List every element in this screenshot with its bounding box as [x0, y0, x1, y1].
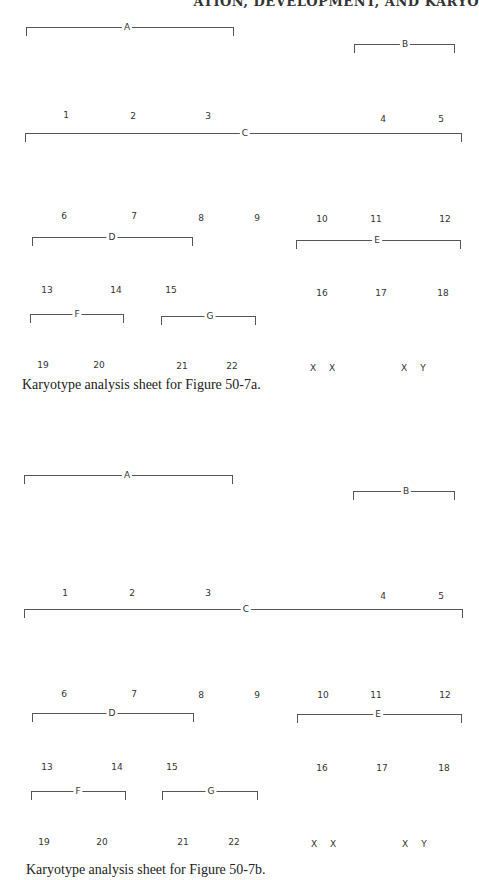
chromosome-label: 16 — [316, 288, 327, 298]
group-bracket-e: E — [296, 240, 461, 249]
group-label-f: F — [73, 785, 82, 797]
chromosome-label-x: X — [402, 839, 408, 849]
chromosome-label: 14 — [110, 285, 121, 295]
chromosome-label: 13 — [41, 762, 52, 772]
chromosome-label: 21 — [177, 837, 188, 847]
group-label-d: D — [107, 231, 118, 243]
chromosome-label: 11 — [370, 214, 381, 224]
chromosome-label-x: X — [329, 363, 335, 373]
chromosome-label: 22 — [226, 361, 237, 371]
group-label-g: G — [206, 785, 217, 797]
chromosome-label: 9 — [254, 213, 260, 223]
chromosome-label-y: Y — [421, 839, 427, 849]
group-bracket-g: G — [161, 316, 256, 325]
chromosome-label: 6 — [61, 689, 67, 699]
group-bracket-g: G — [162, 791, 258, 800]
chromosome-label: 2 — [129, 588, 135, 598]
group-label-a: A — [122, 21, 132, 33]
group-label-c: C — [241, 603, 251, 615]
chromosome-label: 6 — [61, 211, 67, 221]
chromosome-label: 2 — [130, 111, 136, 121]
chromosome-label: 4 — [380, 114, 386, 124]
chromosome-label-x: X — [310, 363, 316, 373]
chromosome-label: 1 — [63, 110, 69, 120]
group-label-d: D — [107, 707, 118, 719]
group-label-e: E — [372, 234, 382, 246]
chromosome-label: 22 — [228, 837, 239, 847]
group-label-e: E — [373, 708, 383, 720]
chromosome-label-x: X — [330, 839, 336, 849]
chromosome-label: 3 — [205, 588, 211, 598]
karyotype-sheet-b: A B 1 2 3 4 5 C 6 7 8 9 10 11 12 D E 13 … — [0, 478, 479, 880]
textbook-page: ATION, DEVELOPMENT, AND KARYO A B 1 2 3 … — [0, 0, 479, 880]
chromosome-label-x: X — [401, 363, 407, 373]
group-bracket-b: B — [354, 44, 455, 53]
chromosome-label: 16 — [316, 763, 327, 773]
chromosome-label: 7 — [131, 689, 137, 699]
chromosome-label: 4 — [380, 591, 386, 601]
chromosome-label: 14 — [111, 762, 122, 772]
chromosome-label: 15 — [165, 285, 176, 295]
chromosome-label: 21 — [176, 361, 187, 371]
group-label-c: C — [240, 127, 250, 139]
chromosome-label: 17 — [376, 763, 387, 773]
figure-caption: Karyotype analysis sheet for Figure 50-7… — [26, 862, 266, 878]
chromosome-label: 11 — [370, 690, 381, 700]
chromosome-label: 10 — [316, 214, 327, 224]
chromosome-label: 20 — [96, 837, 107, 847]
group-bracket-d: D — [32, 237, 193, 246]
group-label-a: A — [122, 469, 132, 481]
chromosome-label: 12 — [439, 690, 450, 700]
group-label-f: F — [72, 308, 81, 320]
group-bracket-c: C — [25, 133, 462, 142]
chromosome-label: 18 — [438, 763, 449, 773]
group-bracket-d: D — [32, 713, 194, 722]
chromosome-label: 3 — [205, 111, 211, 121]
group-label-b: B — [400, 38, 410, 50]
group-label-b: B — [401, 485, 411, 497]
chromosome-label: 5 — [438, 114, 444, 124]
group-bracket-f: F — [31, 791, 126, 800]
chromosome-label: 20 — [93, 360, 104, 370]
karyotype-sheet-a: A B 1 2 3 4 5 C 6 7 8 9 10 11 12 D E 13 … — [0, 0, 479, 420]
figure-caption: Karyotype analysis sheet for Figure 50-7… — [22, 377, 261, 393]
chromosome-label: 9 — [254, 690, 260, 700]
group-bracket-a: A — [24, 475, 233, 484]
chromosome-label: 5 — [438, 591, 444, 601]
group-bracket-c: C — [24, 609, 463, 618]
chromosome-label-x: X — [311, 839, 317, 849]
chromosome-label: 18 — [437, 288, 448, 298]
chromosome-label: 19 — [38, 837, 49, 847]
group-bracket-f: F — [30, 314, 124, 323]
group-bracket-e: E — [297, 714, 462, 723]
chromosome-label: 15 — [166, 762, 177, 772]
chromosome-label-y: Y — [420, 363, 426, 373]
group-label-g: G — [205, 310, 216, 322]
chromosome-label: 17 — [375, 288, 386, 298]
group-bracket-a: A — [26, 27, 234, 36]
chromosome-label: 10 — [317, 690, 328, 700]
chromosome-label: 7 — [131, 211, 137, 221]
chromosome-label: 12 — [439, 214, 450, 224]
group-bracket-b: B — [353, 491, 455, 500]
chromosome-label: 13 — [41, 285, 52, 295]
chromosome-label: 8 — [198, 690, 204, 700]
chromosome-label: 1 — [62, 588, 68, 598]
chromosome-label: 8 — [198, 213, 204, 223]
chromosome-label: 19 — [37, 360, 48, 370]
